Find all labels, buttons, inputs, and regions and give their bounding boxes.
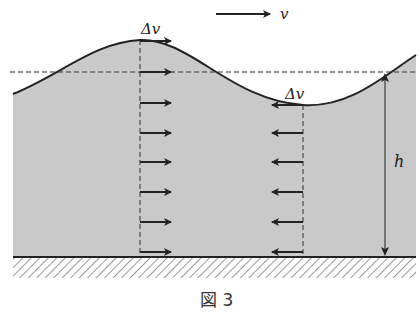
- crest-delta-v-label: Δv: [140, 20, 161, 38]
- depth-label: h: [394, 152, 404, 171]
- ground-hatch: [13, 258, 416, 278]
- velocity-label: v: [280, 5, 289, 23]
- water-region: [13, 40, 416, 257]
- wave-diagram: v Δv Δv h 図 3: [0, 0, 419, 314]
- figure-caption: 図 3: [200, 290, 233, 310]
- trough-delta-v-label: Δv: [284, 85, 305, 103]
